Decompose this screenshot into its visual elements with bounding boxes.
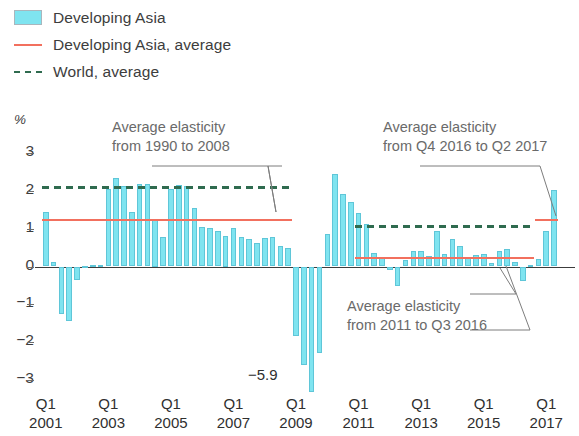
y-axis-tick-mark [27, 267, 34, 268]
x-axis-quarter-label: Q1 [526, 395, 566, 412]
x-axis-year-label: 2015 [461, 414, 507, 431]
x-axis-quarter-label: Q1 [26, 395, 66, 412]
y-axis-tick-label: −3 [6, 369, 34, 387]
y-axis-tick-label: 3 [6, 142, 34, 160]
x-axis-quarter-label: Q1 [339, 395, 379, 412]
y-axis-tick-label: −2 [6, 331, 34, 349]
y-axis-tick-mark [27, 191, 34, 192]
y-axis-tick-label: 1 [6, 218, 34, 236]
y-axis-tick-mark [27, 342, 34, 343]
y-axis-tick-label: 0 [6, 256, 34, 274]
x-axis-year-label: 2003 [85, 414, 131, 431]
elasticity-bar-chart: Developing Asia Developing Asia, average… [0, 0, 579, 436]
x-axis-year-label: 2001 [23, 414, 69, 431]
x-axis-year-label: 2005 [148, 414, 194, 431]
x-axis-year-label: 2013 [398, 414, 444, 431]
x-axis-year-label: 2011 [336, 414, 382, 431]
x-axis-year-label: 2009 [273, 414, 319, 431]
y-axis-tick-label: −1 [6, 293, 34, 311]
y-axis-tick-mark [27, 229, 34, 230]
x-axis-year-label: 2017 [523, 414, 569, 431]
x-axis-quarter-label: Q1 [151, 395, 191, 412]
x-axis-quarter-label: Q1 [464, 395, 504, 412]
x-axis-quarter-label: Q1 [276, 395, 316, 412]
x-axis-quarter-label: Q1 [213, 395, 253, 412]
y-axis-tick-mark [27, 380, 34, 381]
x-axis-quarter-label: Q1 [88, 395, 128, 412]
y-axis-tick-mark [27, 153, 34, 154]
y-axis-tick-mark [27, 304, 34, 305]
y-axis-tick-label: 2 [6, 180, 34, 198]
x-axis-quarter-label: Q1 [401, 395, 441, 412]
annotation-leader-lines [0, 0, 579, 436]
x-axis-year-label: 2007 [210, 414, 256, 431]
